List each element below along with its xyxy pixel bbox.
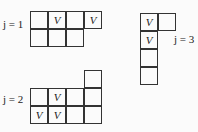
diagram-label: j = 2: [3, 93, 23, 105]
diagram-cell: V: [48, 11, 66, 29]
diagram-cell: [140, 67, 158, 85]
diagram-cell: V: [48, 88, 66, 106]
diagram-cell: V: [48, 106, 66, 124]
diagram-cell: [84, 88, 102, 106]
diagram-cell: [84, 70, 102, 88]
diagram-cell: [66, 106, 84, 124]
diagram-cell: [66, 29, 84, 47]
diagram-label: j = 3: [174, 33, 194, 45]
diagram-cell: V: [30, 106, 48, 124]
diagram-cell: [30, 11, 48, 29]
diagram-cell: [66, 11, 84, 29]
diagram-cell: [66, 88, 84, 106]
diagram-cell: V: [84, 11, 102, 29]
diagram-label: j = 1: [3, 18, 23, 30]
diagram-cell: [84, 106, 102, 124]
diagram-cell: [140, 49, 158, 67]
diagram-cell: [48, 29, 66, 47]
diagram-cell: [30, 29, 48, 47]
diagram-cell: V: [140, 31, 158, 49]
diagram-cell: [30, 88, 48, 106]
diagram-cell: [158, 13, 176, 31]
diagram-cell: V: [140, 13, 158, 31]
